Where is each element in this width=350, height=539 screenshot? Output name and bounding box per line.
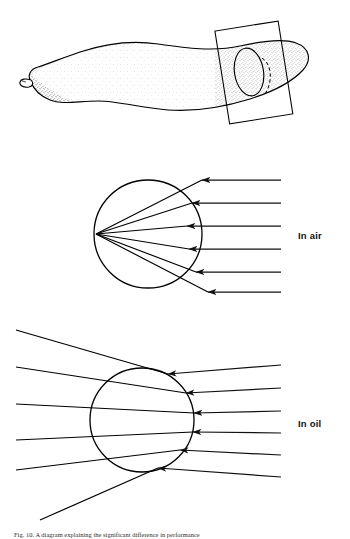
specimen-head-proboscis [20, 79, 33, 87]
incoming-rays-air [187, 180, 281, 292]
lens-circle-oil [90, 368, 194, 472]
figure-caption-text: Fig. 10. A diagram explaining the signif… [14, 531, 200, 538]
ray-diagram-in-air: In air [94, 180, 322, 292]
figure-caption: Fig. 10. A diagram explaining the signif… [0, 531, 350, 539]
figure-canvas: In air In [0, 0, 350, 539]
label-in-oil: In oil [298, 418, 321, 429]
lens-circle-air [94, 180, 202, 288]
label-in-air: In air [298, 230, 322, 241]
specimen-body-stipple [20, 30, 320, 125]
refracted-rays-oil [16, 330, 194, 520]
ray-diagram-in-oil: In oil [16, 330, 321, 520]
figure-root: In air In [0, 0, 350, 539]
specimen-drawing [20, 21, 320, 125]
